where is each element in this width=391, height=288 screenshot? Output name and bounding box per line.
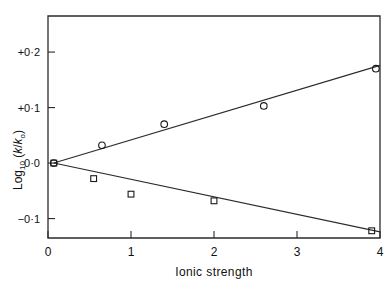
y-tick-label: +0·2 xyxy=(18,46,40,58)
x-tick-label: 2 xyxy=(211,245,218,259)
data-point-circle xyxy=(99,142,106,149)
x-tick-label: 4 xyxy=(377,245,384,259)
plot-frame xyxy=(48,16,380,238)
data-point-square xyxy=(211,198,217,204)
data-point-circle xyxy=(261,103,268,110)
figure-container: 01234 +0·2+0·10·0−0·1 Ionic strength Log… xyxy=(0,0,391,288)
y-axis-ticks xyxy=(48,52,55,219)
scatter-plot: 01234 +0·2+0·10·0−0·1 Ionic strength Log… xyxy=(0,0,391,288)
x-tick-label: 0 xyxy=(45,245,52,259)
data-point-circle xyxy=(161,121,168,128)
data-point-square xyxy=(91,176,97,182)
x-tick-label: 3 xyxy=(294,245,301,259)
y-axis-title-paren-open: ( xyxy=(11,154,25,161)
x-tick-label: 1 xyxy=(128,245,135,259)
y-axis-title-log: Log xyxy=(11,170,25,190)
x-tick-labels: 01234 xyxy=(45,245,384,259)
y-axis-title: Log10 (k/ko) xyxy=(11,130,27,190)
y-axis-title-paren-close: ) xyxy=(11,130,25,134)
data-point-square xyxy=(128,191,134,197)
y-tick-label: +0·1 xyxy=(18,102,40,114)
x-axis-title: Ionic strength xyxy=(175,265,253,279)
svg-text:Log10 (k/ko): Log10 (k/ko) xyxy=(11,130,27,190)
x-axis-ticks xyxy=(48,231,380,238)
y-tick-label: −0·1 xyxy=(18,213,40,225)
